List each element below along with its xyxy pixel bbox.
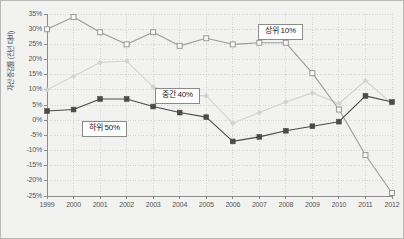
axis-lines [44,14,392,199]
chart-plot-graphics [0,0,404,239]
callout-top-10: 상위 10% [258,24,303,40]
callout-middle-40: 중간 40% [155,88,200,104]
callout-bottom-50: 하위 50% [82,121,127,137]
chart-container: 자산 증감률 (전년 대비) 35%30%25%20%15%10%5%0%-5%… [0,0,404,239]
